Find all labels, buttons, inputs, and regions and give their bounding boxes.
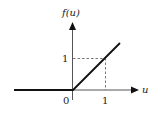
relu-curve — [14, 43, 120, 90]
x-tick-label: 1 — [102, 95, 108, 106]
y-axis-arrow-icon — [69, 22, 76, 30]
y-axis-label: f(u) — [61, 7, 80, 18]
x-axis-arrow-icon — [131, 87, 139, 94]
y-tick-label: 1 — [62, 53, 68, 64]
relu-diagram: f(u) u 0 1 1 — [0, 0, 158, 113]
x-axis-label: u — [142, 84, 148, 95]
origin-label: 0 — [63, 95, 69, 106]
